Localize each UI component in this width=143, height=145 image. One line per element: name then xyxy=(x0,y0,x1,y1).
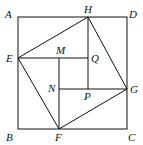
square-abcd xyxy=(18,17,127,129)
label-c: C xyxy=(128,131,136,143)
label-d: D xyxy=(128,8,137,20)
label-a: A xyxy=(4,8,12,20)
label-e: E xyxy=(5,52,13,64)
label-f: F xyxy=(54,131,62,143)
label-m: M xyxy=(55,44,66,56)
label-p: P xyxy=(83,90,91,102)
label-n: N xyxy=(47,82,56,94)
label-g: G xyxy=(130,83,138,95)
label-h: H xyxy=(83,3,93,15)
square-ehgf xyxy=(18,17,127,129)
geometry-diagram: A D B C H E G F M Q N P xyxy=(0,0,143,145)
label-q: Q xyxy=(91,52,99,64)
label-b: B xyxy=(6,131,13,143)
